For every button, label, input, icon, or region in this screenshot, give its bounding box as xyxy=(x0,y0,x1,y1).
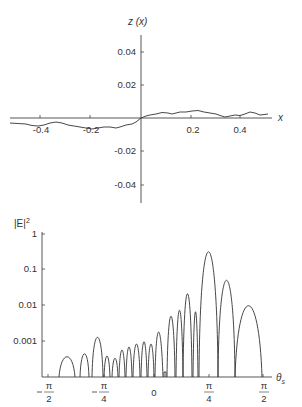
top-y-axis-label: z (x) xyxy=(127,16,147,27)
bottom-y-axis-label: |E|2 xyxy=(14,217,30,229)
bottom-y-tick-label: 0.01 xyxy=(19,299,38,310)
svg-text:2: 2 xyxy=(261,393,266,404)
top-y-tick-label: -0.04 xyxy=(114,179,136,190)
x-tick-pi-over-4: π 4 xyxy=(204,380,214,404)
x-tick-zero: 0 xyxy=(151,387,156,398)
svg-text:π: π xyxy=(46,380,53,391)
svg-text:π: π xyxy=(206,380,213,391)
top-y-tick-label: 0.02 xyxy=(118,79,137,90)
bottom-x-ticks: π 2 π 4 0 π 4 π 2 xyxy=(37,374,269,404)
bottom-y-tick-label: 0.001 xyxy=(13,335,37,346)
top-y-tick-label: 0.04 xyxy=(118,46,137,57)
top-x-tick-label: 0.4 xyxy=(233,124,246,135)
bottom-chart: |E|2 θs 1 0.1 0.01 0.001 π 2 xyxy=(13,217,285,404)
svg-text:2: 2 xyxy=(46,393,51,404)
top-chart: z (x) x 0.04 0.02 -0.02 -0.04 -0.4 -0.2 … xyxy=(10,16,284,203)
bottom-y-tick-label: 1 xyxy=(32,228,37,239)
x-tick-neg-pi-over-4: π 4 xyxy=(92,380,109,404)
top-x-axis-label: x xyxy=(277,112,284,123)
svg-text:4: 4 xyxy=(206,393,211,404)
svg-text:π: π xyxy=(261,380,268,391)
svg-text:π: π xyxy=(101,380,108,391)
bottom-x-axis-label: θs xyxy=(276,372,285,385)
intensity-lobes xyxy=(59,252,262,377)
x-tick-pi-over-2: π 2 xyxy=(259,380,269,404)
svg-text:4: 4 xyxy=(101,393,106,404)
bottom-y-ticks: 1 0.1 0.01 0.001 xyxy=(13,228,45,346)
x-tick-neg-pi-over-2: π 2 xyxy=(37,380,54,404)
bottom-y-tick-label: 0.1 xyxy=(24,263,37,274)
figure: z (x) x 0.04 0.02 -0.02 -0.04 -0.4 -0.2 … xyxy=(0,0,302,407)
top-y-tick-label: -0.02 xyxy=(114,145,136,156)
top-x-tick-label: 0.2 xyxy=(186,124,199,135)
top-x-tick-label: -0.2 xyxy=(83,124,99,135)
